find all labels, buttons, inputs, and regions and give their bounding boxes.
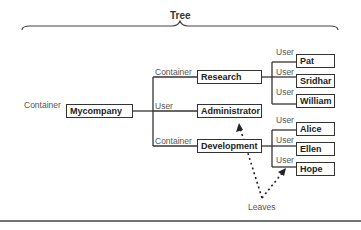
ellen-type-label: User	[276, 136, 294, 145]
tree-connectors	[0, 0, 361, 230]
node-william[interactable]: William	[296, 94, 335, 108]
leaves-annotation: Leaves	[248, 203, 275, 212]
sridhar-type-label: User	[276, 68, 294, 77]
node-administrator[interactable]: Administrator	[197, 104, 262, 118]
node-research[interactable]: Research	[197, 70, 262, 84]
research-type-label: Container	[155, 68, 192, 77]
development-type-label: Container	[155, 137, 192, 146]
node-hope[interactable]: Hope	[296, 162, 335, 176]
hope-type-label: User	[276, 156, 294, 165]
node-pat[interactable]: Pat	[296, 54, 335, 68]
node-sridhar[interactable]: Sridhar	[296, 74, 335, 88]
node-alice[interactable]: Alice	[296, 122, 335, 136]
alice-type-label: User	[276, 116, 294, 125]
pat-type-label: User	[276, 48, 294, 57]
william-type-label: User	[276, 88, 294, 97]
tree-title: Tree	[170, 10, 191, 21]
node-mycompany[interactable]: Mycompany	[66, 104, 133, 118]
node-development[interactable]: Development	[197, 139, 262, 153]
node-ellen[interactable]: Ellen	[296, 142, 335, 156]
administrator-type-label: User	[155, 102, 173, 111]
root-type-label: Container	[24, 101, 61, 110]
